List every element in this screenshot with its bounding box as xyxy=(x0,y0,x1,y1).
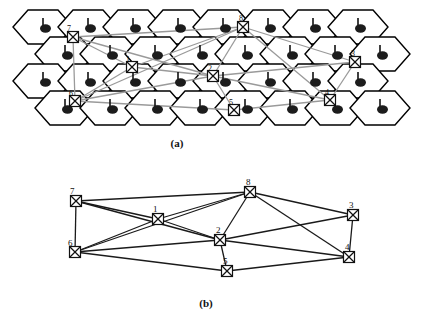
panel-b-label-7: 7 xyxy=(70,186,75,196)
panel-b-label-8: 8 xyxy=(246,177,251,187)
panel-a-label-3: 3 xyxy=(351,49,355,58)
panel-b-label-4: 4 xyxy=(345,242,350,252)
panel-b-label-5: 5 xyxy=(223,256,228,266)
panel-b-label-2: 2 xyxy=(216,225,221,235)
figure-container: 7 8 1 3 2 6 5 4 xyxy=(0,0,436,320)
panel-a-label-2: 2 xyxy=(208,64,212,73)
panel-b-label-6: 6 xyxy=(68,238,73,248)
panel-b-label-3: 3 xyxy=(349,200,354,210)
panel-b-edges xyxy=(75,192,353,271)
panel-a-label-6: 6 xyxy=(69,89,73,98)
panel-b-label-1: 1 xyxy=(153,204,158,214)
panel-a-label-7: 7 xyxy=(67,24,71,33)
panel-a-label-1: 1 xyxy=(126,55,130,64)
figure-svg: 7 8 1 3 2 6 5 4 xyxy=(0,0,436,320)
panel-b-nodes xyxy=(70,187,359,277)
panel-b-caption: (b) xyxy=(186,297,226,309)
panel-a-label-4: 4 xyxy=(325,88,329,97)
panel-a-caption: (a) xyxy=(157,137,197,149)
panel-a-label-8: 8 xyxy=(239,14,243,23)
panel-a-label-5: 5 xyxy=(229,98,233,107)
